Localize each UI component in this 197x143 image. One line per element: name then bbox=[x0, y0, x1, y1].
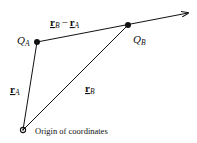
label-q-b: QB bbox=[133, 33, 146, 47]
label-r-b: rB bbox=[85, 82, 95, 96]
vector-diagram: QA QB rB−rA rA rB Origin of coordinates bbox=[0, 0, 197, 143]
origin-dot bbox=[22, 129, 24, 131]
vector-r-a-line bbox=[23, 42, 37, 130]
label-origin: Origin of coordinates bbox=[35, 126, 108, 136]
point-q-a bbox=[34, 39, 40, 45]
label-r-a: rA bbox=[10, 83, 20, 97]
label-r-diff: rB−rA bbox=[50, 16, 80, 30]
label-q-a: QA bbox=[17, 34, 30, 48]
line-through-qa-qb bbox=[37, 13, 188, 42]
point-q-b bbox=[125, 22, 131, 28]
